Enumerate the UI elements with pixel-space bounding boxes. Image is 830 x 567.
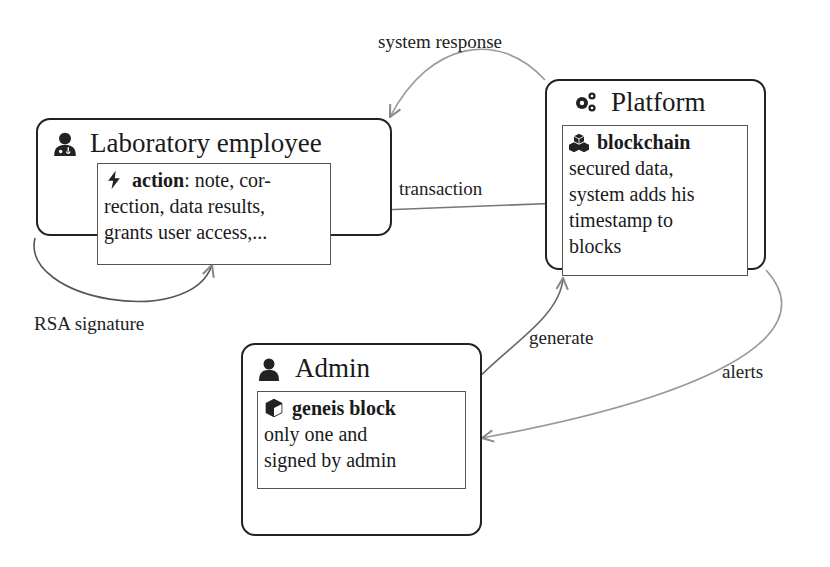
edge-alerts <box>482 270 782 438</box>
user-doctor-icon <box>52 131 78 157</box>
genesis-line: signed by admin <box>264 447 459 473</box>
blockchain-label: blockchain <box>597 129 690 155</box>
genesis-block-box: geneis block only one and signed by admi… <box>257 391 466 489</box>
action-suffix: : note, cor- <box>184 167 271 193</box>
diagram-canvas: Laboratory employee action: note, cor- r… <box>0 0 830 567</box>
node-title: Platform <box>573 87 706 118</box>
action-heading: action: note, cor- <box>104 167 324 193</box>
blockchain-heading: blockchain <box>569 129 741 155</box>
user-icon <box>257 356 283 382</box>
genesis-label: geneis block <box>292 395 396 421</box>
blockchain-box: blockchain secured data, system adds his… <box>562 125 748 276</box>
cubes-icon <box>569 132 589 152</box>
genesis-heading: geneis block <box>264 395 459 421</box>
edge-system-response <box>390 49 545 117</box>
edge-label-rsa-signature: RSA signature <box>34 313 144 335</box>
blockchain-line: secured data, <box>569 155 741 181</box>
blockchain-line: timestamp to <box>569 207 741 233</box>
bolt-icon <box>104 170 124 190</box>
node-title-text: Laboratory employee <box>90 128 322 159</box>
edge-label-system-response: system response <box>378 31 502 53</box>
cogs-icon <box>573 90 599 116</box>
action-box: action: note, cor- rection, data results… <box>97 163 331 265</box>
action-line: grants user access,... <box>104 219 324 245</box>
node-title: Admin <box>257 353 370 384</box>
action-line: rection, data results, <box>104 193 324 219</box>
blockchain-line: system adds his <box>569 181 741 207</box>
action-label: action <box>132 167 184 193</box>
edge-label-transaction: transaction <box>399 178 482 200</box>
node-title: Laboratory employee <box>52 128 322 159</box>
blockchain-line: blocks <box>569 233 741 259</box>
node-title-text: Platform <box>611 87 706 118</box>
edge-label-generate: generate <box>529 327 593 349</box>
edge-label-alerts: alerts <box>722 361 763 383</box>
node-title-text: Admin <box>295 353 370 384</box>
cube-icon <box>264 398 284 418</box>
genesis-line: only one and <box>264 421 459 447</box>
